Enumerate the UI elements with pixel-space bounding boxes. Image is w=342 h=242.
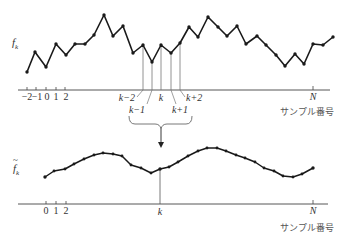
bottom-tick-label: 0 bbox=[44, 205, 49, 216]
top-panel: fk −2 −1 0 1 2 N サンプル番号 bbox=[12, 13, 335, 117]
bottom-panel: ~ fk 0 1 2 k N サンプル番号 bbox=[13, 147, 334, 233]
top-end-label: N bbox=[309, 91, 318, 102]
top-y-label: fk bbox=[12, 36, 19, 51]
top-tick-label: −1 bbox=[32, 91, 43, 102]
bottom-tick-label: 2 bbox=[64, 205, 69, 216]
label-k-plus-2: k+2 bbox=[186, 92, 202, 103]
bottom-k-label: k bbox=[158, 206, 163, 217]
top-tick-label: 2 bbox=[64, 91, 69, 102]
label-k-center: k bbox=[159, 92, 164, 103]
down-arrow-icon bbox=[158, 129, 164, 148]
top-tick-label: 1 bbox=[54, 91, 59, 102]
label-k-minus-1: k−1 bbox=[129, 104, 145, 115]
top-axis-ticks bbox=[27, 86, 313, 90]
label-k-minus-2: k−2 bbox=[119, 92, 135, 103]
label-k-plus-1: k+1 bbox=[172, 104, 188, 115]
window-brace bbox=[129, 116, 192, 129]
bottom-axis-ticks bbox=[46, 200, 313, 204]
bottom-end-label: N bbox=[309, 205, 318, 216]
bottom-tick-label: 1 bbox=[54, 205, 59, 216]
top-x-axis-label: サンプル番号 bbox=[280, 106, 334, 117]
moving-average-diagram: fk −2 −1 0 1 2 N サンプル番号 bbox=[0, 0, 342, 242]
smoothed-signal-points bbox=[43, 147, 314, 179]
bottom-x-axis-label: サンプル番号 bbox=[280, 222, 334, 233]
top-tick-label: 0 bbox=[45, 91, 50, 102]
